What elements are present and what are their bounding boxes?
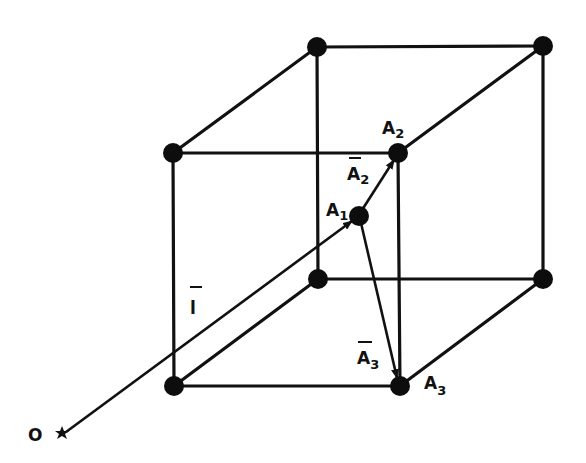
edge-back-top [317, 46, 543, 47]
label-vector-a2: A2 [347, 158, 369, 187]
node-a3 [390, 376, 410, 396]
label-vector-l: l [190, 287, 202, 318]
svg-text:A3: A3 [357, 348, 379, 372]
node-back-top-left [307, 37, 327, 57]
label-origin: O [28, 425, 42, 445]
edge-front-right [398, 153, 400, 386]
svg-text:A2: A2 [347, 164, 369, 187]
svg-text:l: l [190, 298, 196, 318]
node-front-top-left [163, 143, 183, 163]
label-vector-a3: A3 [357, 342, 379, 372]
node-a2 [388, 143, 408, 163]
edge-bottom-right-depth [400, 279, 543, 386]
edge-bottom-left-depth [174, 279, 318, 386]
node-back-bottom-left [308, 269, 328, 289]
node-front-bottom-left [164, 376, 184, 396]
origin-star-icon [55, 426, 69, 439]
edge-top-left-depth [173, 47, 317, 153]
label-a3: A3 [424, 373, 446, 398]
label-a2: A2 [382, 118, 404, 141]
label-a1: A1 [326, 200, 348, 223]
node-a1 [349, 206, 369, 226]
vectors [66, 160, 397, 432]
edge-top-right-depth [398, 46, 543, 153]
node-back-bottom-right [533, 269, 553, 289]
node-back-top-right [533, 36, 553, 56]
lattice-diagram: O A1 A2 A3 l A2 A3 [0, 0, 586, 463]
edge-back-left [317, 47, 318, 279]
vector-l-arrow [66, 221, 352, 432]
